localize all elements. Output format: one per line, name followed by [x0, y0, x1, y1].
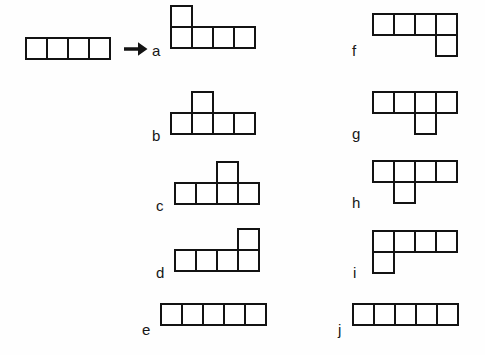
square-cell — [415, 303, 438, 326]
square-cell — [216, 182, 239, 205]
square-cell — [191, 26, 214, 49]
square-cell — [414, 160, 437, 183]
square-cell — [414, 13, 437, 36]
square-cell — [216, 249, 239, 272]
shape-label-b: b — [152, 128, 160, 143]
square-cell — [414, 112, 437, 135]
square-cell — [393, 13, 416, 36]
square-cell — [352, 303, 375, 326]
shape-label-i: i — [353, 265, 356, 280]
shape-label-c: c — [156, 198, 164, 213]
square-cell — [191, 112, 214, 135]
shape-label-g: g — [352, 126, 360, 141]
square-cell — [191, 91, 214, 114]
square-cell — [393, 91, 416, 114]
square-cell — [237, 249, 260, 272]
shape-label-e: e — [142, 322, 150, 337]
square-cell — [195, 249, 218, 272]
square-cell — [181, 303, 204, 326]
square-cell — [67, 37, 90, 60]
square-cell — [233, 26, 256, 49]
square-cell — [394, 303, 417, 326]
square-cell — [237, 182, 260, 205]
square-cell — [393, 160, 416, 183]
square-cell — [195, 182, 218, 205]
square-cell — [88, 37, 111, 60]
square-cell — [372, 160, 395, 183]
square-cell — [223, 303, 246, 326]
square-cell — [435, 160, 458, 183]
square-cell — [170, 112, 193, 135]
square-cell — [25, 37, 48, 60]
square-cell — [174, 249, 197, 272]
square-cell — [212, 26, 235, 49]
square-cell — [216, 161, 239, 184]
square-cell — [435, 34, 458, 57]
square-cell — [237, 228, 260, 251]
square-cell — [393, 181, 416, 204]
square-cell — [233, 112, 256, 135]
shape-label-j: j — [338, 322, 341, 337]
shape-label-d: d — [156, 265, 164, 280]
square-cell — [372, 251, 395, 274]
square-cell — [436, 303, 459, 326]
square-cell — [170, 26, 193, 49]
square-cell — [202, 303, 225, 326]
square-cell — [435, 91, 458, 114]
shape-label-h: h — [352, 195, 360, 210]
shape-label-f: f — [352, 43, 356, 58]
square-cell — [160, 303, 183, 326]
square-cell — [174, 182, 197, 205]
pentomino-figure: abcdefghij — [0, 0, 485, 355]
square-cell — [393, 230, 416, 253]
square-cell — [372, 13, 395, 36]
square-cell — [373, 303, 396, 326]
square-cell — [414, 230, 437, 253]
square-cell — [212, 112, 235, 135]
square-cell — [435, 13, 458, 36]
square-cell — [435, 230, 458, 253]
square-cell — [46, 37, 69, 60]
square-cell — [372, 91, 395, 114]
square-cell — [372, 230, 395, 253]
arrow-right-icon — [124, 40, 148, 58]
square-cell — [170, 5, 193, 28]
square-cell — [414, 91, 437, 114]
square-cell — [244, 303, 267, 326]
shape-label-a: a — [152, 43, 160, 58]
